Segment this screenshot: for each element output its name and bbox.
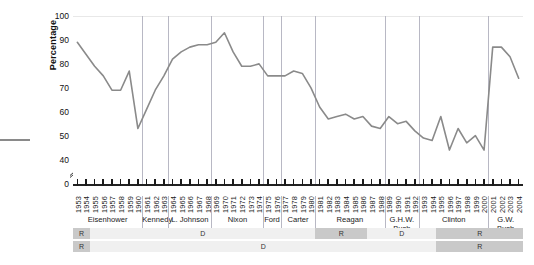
x-tick-mark	[146, 179, 148, 186]
x-tick-mark	[362, 179, 364, 186]
x-tick-mark	[466, 179, 468, 186]
x-tick-label: 1993	[420, 189, 429, 213]
x-tick-mark	[284, 179, 286, 186]
x-tick-mark	[423, 179, 425, 186]
x-tick-mark	[310, 179, 312, 186]
y-tick-label: 50	[43, 132, 69, 140]
x-tick-mark	[128, 179, 130, 186]
y-tick-label: 60	[43, 108, 69, 116]
x-tick-mark	[293, 179, 295, 186]
x-tick-mark	[319, 179, 321, 186]
x-axis-line	[73, 184, 523, 186]
x-tick-label: 1966	[186, 189, 195, 213]
y-tick-label: 100	[43, 12, 69, 20]
x-tick-label: 1984	[342, 189, 351, 213]
x-tick-label: 1986	[359, 189, 368, 213]
x-tick-label: 1961	[143, 189, 152, 213]
x-tick-mark	[345, 179, 347, 186]
x-tick-mark	[509, 179, 511, 186]
x-tick-mark	[483, 179, 485, 186]
control-segment-r: R	[73, 241, 90, 252]
x-tick-label: 1957	[108, 189, 117, 213]
x-tick-mark	[137, 179, 139, 186]
x-tick-label: 1964	[169, 189, 178, 213]
x-tick-mark	[440, 179, 442, 186]
x-tick-mark	[449, 179, 451, 186]
x-tick-label: 1972	[238, 189, 247, 213]
x-tick-label: 1958	[117, 189, 126, 213]
x-tick-mark	[85, 179, 87, 186]
x-tick-mark	[189, 179, 191, 186]
control-segment-d: D	[90, 228, 315, 239]
x-tick-label: 1969	[212, 189, 221, 213]
x-tick-mark	[250, 179, 252, 186]
control-segment-d: D	[90, 241, 436, 252]
plot-area	[73, 16, 523, 184]
x-tick-mark	[94, 179, 96, 186]
x-tick-mark	[102, 179, 104, 186]
x-tick-mark	[336, 179, 338, 186]
x-tick-mark	[215, 179, 217, 186]
x-tick-label: 1983	[333, 189, 342, 213]
x-tick-mark	[327, 179, 329, 186]
x-tick-mark	[111, 179, 113, 186]
x-tick-label: 1967	[195, 189, 204, 213]
x-tick-label: 2001	[489, 189, 498, 213]
x-tick-mark	[302, 179, 304, 186]
x-tick-mark	[475, 179, 477, 186]
chart-root: Percentage 1009080706050400 195319541955…	[0, 0, 534, 265]
y-tick-label: 80	[43, 60, 69, 68]
x-tick-label: 1989	[385, 189, 394, 213]
control-segment-r: R	[73, 228, 90, 239]
x-tick-label: 1990	[394, 189, 403, 213]
x-tick-mark	[180, 179, 182, 186]
control-segment-r: R	[315, 228, 367, 239]
x-tick-mark	[518, 179, 520, 186]
x-tick-mark	[198, 179, 200, 186]
left-decorative-rule	[0, 139, 30, 141]
y-tick-label: 70	[43, 84, 69, 92]
x-tick-label: 2004	[515, 189, 524, 213]
data-series-line	[73, 16, 523, 184]
x-tick-mark	[276, 179, 278, 186]
y-tick-label: 40	[43, 156, 69, 164]
x-tick-mark	[457, 179, 459, 186]
x-tick-label: 1978	[290, 189, 299, 213]
x-tick-mark	[224, 179, 226, 186]
x-tick-mark	[77, 179, 79, 186]
x-tick-mark	[405, 179, 407, 186]
y-tick-label: 0	[43, 180, 69, 188]
x-tick-mark	[163, 179, 165, 186]
x-tick-mark	[501, 179, 503, 186]
x-tick-label: 1995	[437, 189, 446, 213]
x-tick-label: 1955	[91, 189, 100, 213]
x-tick-mark	[154, 179, 156, 186]
x-tick-label: 1998	[463, 189, 472, 213]
x-tick-mark	[379, 179, 381, 186]
x-tick-mark	[431, 179, 433, 186]
x-tick-label: 1975	[264, 189, 273, 213]
x-tick-label: 1987	[368, 189, 377, 213]
x-tick-mark	[492, 179, 494, 186]
x-tick-mark	[371, 179, 373, 186]
x-tick-mark	[267, 179, 269, 186]
y-tick-label: 90	[43, 36, 69, 44]
control-segment-r: R	[436, 228, 523, 239]
x-tick-mark	[232, 179, 234, 186]
x-tick-mark	[353, 179, 355, 186]
x-tick-mark	[172, 179, 174, 186]
x-tick-mark	[258, 179, 260, 186]
x-tick-label: 1981	[316, 189, 325, 213]
x-tick-mark	[206, 179, 208, 186]
x-tick-mark	[388, 179, 390, 186]
x-tick-mark	[120, 179, 122, 186]
control-segment-d: D	[367, 228, 436, 239]
control-segment-r: R	[436, 241, 523, 252]
x-tick-mark	[414, 179, 416, 186]
x-tick-mark	[241, 179, 243, 186]
x-tick-mark	[397, 179, 399, 186]
